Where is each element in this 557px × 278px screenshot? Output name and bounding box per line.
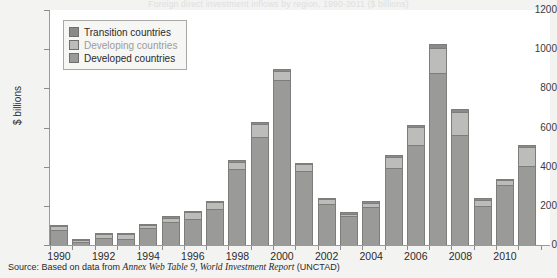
bar-stack: [474, 10, 492, 245]
bar-segment-developed: [318, 204, 336, 245]
x-tick-label: 1996: [173, 250, 213, 262]
bar-segment-transition: [362, 201, 380, 203]
bar-segment-transition: [184, 211, 202, 212]
bar-segment-developing: [518, 147, 536, 166]
bar-segment-developed: [362, 207, 380, 245]
bar-segment-developed: [206, 209, 224, 245]
bar-stack: [206, 10, 224, 245]
bar-segment-developing: [162, 218, 180, 223]
bar-stack: [251, 10, 269, 245]
x-tick-mark: [117, 246, 118, 250]
legend-label-developed: Developed countries: [84, 53, 175, 64]
bar-segment-developed: [407, 145, 425, 245]
bar-segment-transition: [496, 179, 514, 181]
bar-segment-developing: [295, 164, 313, 171]
bar-stack: [273, 10, 291, 245]
y-axis-label: $ billions: [12, 71, 23, 141]
bar-segment-developed: [117, 239, 135, 245]
bar-segment-transition: [139, 224, 157, 225]
bar-segment-transition: [117, 233, 135, 234]
bar-stack: [518, 10, 536, 245]
x-tick-mark: [162, 246, 163, 250]
bar-stack: [295, 10, 313, 245]
bar-segment-transition: [295, 163, 313, 164]
x-axis-line: [49, 245, 550, 246]
x-tick-label: 1994: [128, 250, 168, 262]
source-italic-title: Annex Web Table 9, World Investment Repo…: [123, 262, 295, 272]
x-tick-label: 1998: [217, 250, 257, 262]
bar-segment-developed: [184, 219, 202, 245]
x-tick-mark: [429, 246, 430, 250]
x-tick-label: 2006: [396, 250, 436, 262]
bar-segment-developing: [95, 234, 113, 238]
bar-segment-developed: [162, 222, 180, 245]
bar-segment-developing: [451, 112, 469, 136]
bar-segment-developing: [228, 162, 246, 169]
bar-segment-developing: [362, 203, 380, 207]
bar-segment-developed: [50, 230, 68, 245]
source-suffix: (UNCTAD): [294, 262, 339, 272]
bar-segment-developing: [407, 127, 425, 146]
bar-segment-developed: [518, 166, 536, 245]
bar-segment-transition: [385, 155, 403, 157]
figure-screenshot: Foreign direct investment inflows by reg…: [0, 0, 557, 278]
x-tick-mark: [340, 246, 341, 250]
bar-segment-transition: [451, 109, 469, 112]
bar-segment-transition: [273, 69, 291, 71]
bar-segment-developing: [139, 225, 157, 229]
x-tick-mark: [541, 246, 542, 250]
x-tick-label: 1990: [39, 250, 79, 262]
x-tick-label: 2000: [262, 250, 302, 262]
x-tick-mark: [295, 246, 296, 250]
x-tick-mark: [474, 246, 475, 250]
bar-segment-developed: [429, 73, 447, 245]
chart-legend: Transition countries Developing countrie…: [63, 20, 187, 70]
legend-swatch-transition-icon: [69, 27, 79, 37]
bar-stack: [228, 10, 246, 245]
bar-stack: [496, 10, 514, 245]
bar-segment-transition: [228, 160, 246, 162]
bar-segment-developing: [318, 199, 336, 204]
bar-segment-developed: [385, 168, 403, 245]
bar-stack: [318, 10, 336, 245]
bar-segment-developing: [496, 180, 514, 185]
source-prefix: Source: Based on data from: [8, 262, 123, 272]
bar-segment-developing: [385, 157, 403, 168]
bar-segment-transition: [95, 233, 113, 234]
bar-segment-developed: [228, 169, 246, 245]
bar-segment-developing: [273, 71, 291, 80]
bar-segment-transition: [340, 212, 358, 214]
bar-stack: [429, 10, 447, 245]
bar-segment-developed: [496, 185, 514, 245]
bar-segment-transition: [206, 201, 224, 202]
x-tick-label: 1992: [84, 250, 124, 262]
bar-segment-developing: [474, 200, 492, 206]
bar-segment-transition: [474, 198, 492, 200]
bar-segment-developed: [95, 238, 113, 245]
bar-segment-transition: [429, 44, 447, 48]
bar-segment-developed: [139, 228, 157, 245]
legend-swatch-developing-icon: [69, 40, 79, 50]
x-tick-label: 2002: [307, 250, 347, 262]
legend-item-developed: Developed countries: [69, 52, 181, 64]
bar-segment-developing: [72, 240, 90, 242]
x-tick-label: 2004: [351, 250, 391, 262]
figure-title-cutoff: Foreign direct investment inflows by reg…: [0, 0, 557, 9]
bar-segment-developing: [340, 214, 358, 216]
legend-item-transition: Transition countries: [69, 26, 181, 38]
bar-stack: [451, 10, 469, 245]
bar-segment-developing: [50, 226, 68, 230]
x-tick-mark: [206, 246, 207, 250]
bar-segment-transition: [162, 216, 180, 217]
bar-segment-developed: [72, 242, 90, 245]
legend-item-developing: Developing countries: [69, 39, 181, 51]
bar-segment-transition: [518, 145, 536, 147]
bar-stack: [407, 10, 425, 245]
bar-segment-transition: [72, 239, 90, 240]
bar-segment-developed: [340, 216, 358, 245]
source-note: Source: Based on data from Annex Web Tab…: [8, 262, 340, 272]
x-tick-mark: [518, 246, 519, 250]
bar-segment-developed: [474, 206, 492, 245]
x-tick-mark: [251, 246, 252, 250]
bar-segment-developed: [251, 137, 269, 245]
